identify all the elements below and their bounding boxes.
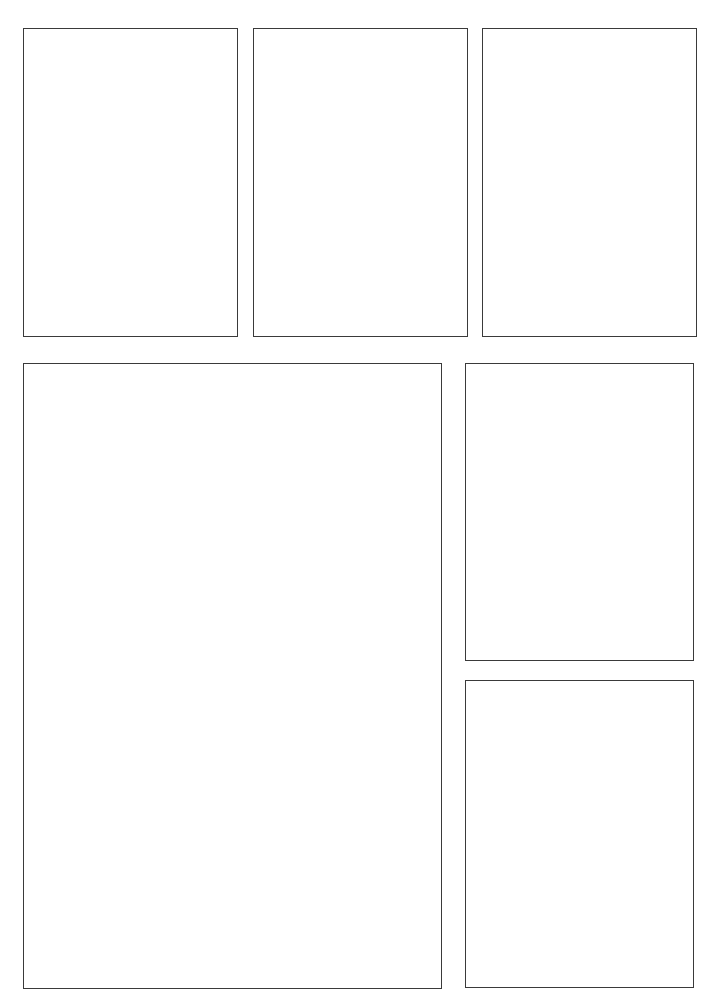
panel-top-right <box>482 28 697 337</box>
panel-top-left <box>23 28 238 337</box>
panel-bottom-right <box>465 680 694 988</box>
panel-large-bottom-left-content <box>24 364 441 988</box>
panel-top-right-content <box>483 29 696 336</box>
panel-top-center-content <box>254 29 467 336</box>
panel-top-left-content <box>24 29 237 336</box>
panel-middle-right-content <box>466 364 693 660</box>
comic-page-layout <box>0 0 715 994</box>
panel-top-center <box>253 28 468 337</box>
panel-bottom-right-content <box>466 681 693 987</box>
panel-large-bottom-left <box>23 363 442 989</box>
panel-middle-right <box>465 363 694 661</box>
